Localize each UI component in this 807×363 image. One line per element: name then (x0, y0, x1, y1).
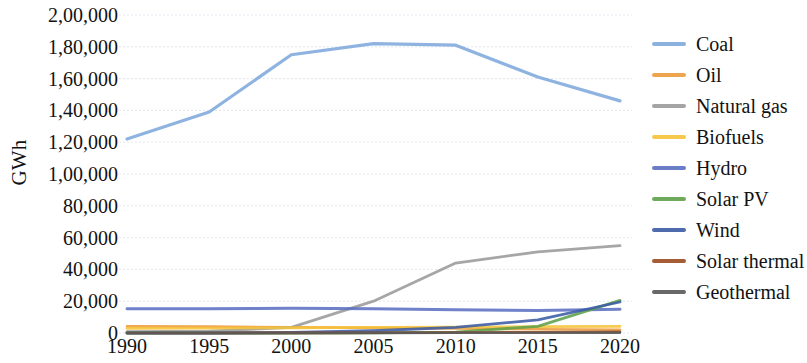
series-line-coal (127, 44, 620, 139)
plot-area (127, 15, 620, 333)
legend-item-natural-gas[interactable]: Natural gas (652, 90, 804, 121)
x-axis-tick-label: 2005 (354, 336, 394, 356)
legend-item-hydro[interactable]: Hydro (652, 152, 804, 183)
y-axis-tick-label: 1,40,000 (8, 100, 118, 120)
gridlines (119, 15, 632, 333)
legend-swatch (652, 197, 686, 201)
legend-label: Solar PV (696, 189, 769, 209)
legend-swatch (652, 73, 686, 77)
legend-item-solar-pv[interactable]: Solar PV (652, 183, 804, 214)
legend-label: Natural gas (696, 96, 788, 116)
series-lines (127, 44, 620, 333)
legend-label: Oil (696, 65, 722, 85)
y-axis-tick-label: 40,000 (8, 259, 118, 279)
legend-swatch (652, 42, 686, 46)
line-chart: GWh 020,00040,00060,00080,0001,00,0001,2… (0, 0, 807, 363)
legend-label: Biofuels (696, 127, 764, 147)
legend-item-coal[interactable]: Coal (652, 28, 804, 59)
legend: CoalOilNatural gasBiofuelsHydroSolar PVW… (652, 28, 804, 307)
legend-swatch (652, 135, 686, 139)
legend-item-solar-thermal[interactable]: Solar thermal (652, 245, 804, 276)
y-axis-tick-label: 2,00,000 (8, 5, 118, 25)
legend-item-oil[interactable]: Oil (652, 59, 804, 90)
legend-swatch (652, 290, 686, 294)
legend-swatch (652, 104, 686, 108)
y-axis-tick-label: 1,60,000 (8, 69, 118, 89)
plot-svg (127, 15, 620, 333)
legend-label: Coal (696, 34, 734, 54)
legend-item-biofuels[interactable]: Biofuels (652, 121, 804, 152)
x-axis-tick-label: 2010 (436, 336, 476, 356)
x-axis-tick-label: 2015 (518, 336, 558, 356)
x-axis-tick-labels: 1990199520002005201020152020 (127, 336, 620, 363)
y-axis-tick-label: 1,00,000 (8, 164, 118, 184)
legend-item-wind[interactable]: Wind (652, 214, 804, 245)
legend-label: Hydro (696, 158, 747, 178)
x-axis-tick-label: 1990 (107, 336, 147, 356)
y-axis-tick-label: 20,000 (8, 291, 118, 311)
legend-item-geothermal[interactable]: Geothermal (652, 276, 804, 307)
legend-swatch (652, 166, 686, 170)
legend-label: Geothermal (696, 282, 790, 302)
series-line-hydro (127, 308, 620, 310)
y-axis-tick-label: 60,000 (8, 228, 118, 248)
legend-swatch (652, 259, 686, 263)
x-axis-tick-label: 2020 (600, 336, 640, 356)
y-axis-tick-labels: 020,00040,00060,00080,0001,00,0001,20,00… (8, 0, 118, 363)
y-axis-tick-label: 1,20,000 (8, 132, 118, 152)
y-axis-tick-label: 0 (8, 323, 118, 343)
legend-label: Wind (696, 220, 740, 240)
legend-swatch (652, 228, 686, 232)
y-axis-tick-label: 80,000 (8, 196, 118, 216)
legend-label: Solar thermal (696, 251, 804, 271)
x-axis-tick-label: 2000 (271, 336, 311, 356)
y-axis-tick-label: 1,80,000 (8, 37, 118, 57)
x-axis-tick-label: 1995 (189, 336, 229, 356)
